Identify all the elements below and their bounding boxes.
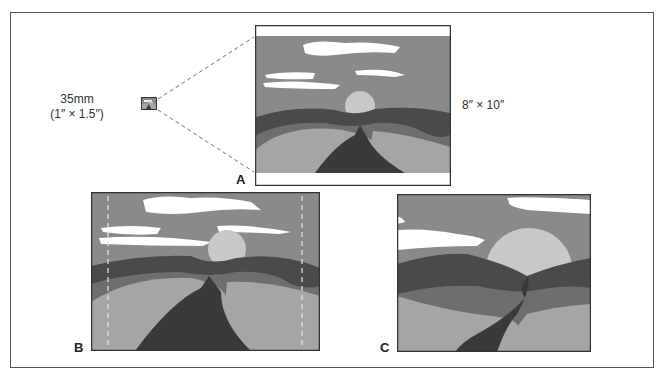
panel-c-letter: C: [380, 340, 389, 355]
panel-a-letter: A: [236, 172, 245, 187]
panel-c-image: [397, 194, 591, 352]
print-size-label: 8″ × 10″: [462, 98, 504, 112]
panel-b-letter: B: [74, 340, 83, 355]
panel-b-image: [91, 192, 320, 351]
panel-a-image: [255, 25, 451, 186]
